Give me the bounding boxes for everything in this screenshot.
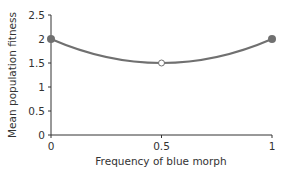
fitness-curve [51, 39, 272, 63]
x-tick-label: 0 [48, 140, 55, 152]
x-tick-label: 1 [269, 140, 276, 152]
filled-marker [268, 35, 276, 43]
y-axis-label: Mean population fitness [6, 12, 18, 138]
y-tick-label: 1.5 [28, 57, 45, 69]
x-axis: 00.51 [48, 135, 276, 152]
x-tick-label: 0.5 [153, 140, 170, 152]
chart-svg: 00.511.522.5 00.51 Mean population fitne… [0, 0, 285, 180]
filled-marker [47, 35, 55, 43]
y-axis: 00.511.522.5 [28, 9, 51, 141]
y-tick-label: 0 [38, 129, 45, 141]
open-marker [159, 60, 165, 66]
y-tick-label: 0.5 [28, 105, 45, 117]
fitness-chart: 00.511.522.5 00.51 Mean population fitne… [0, 0, 285, 180]
y-tick-label: 2.5 [28, 9, 45, 21]
x-axis-label: Frequency of blue morph [95, 155, 226, 167]
y-tick-label: 2 [38, 33, 45, 45]
y-tick-label: 1 [38, 81, 45, 93]
